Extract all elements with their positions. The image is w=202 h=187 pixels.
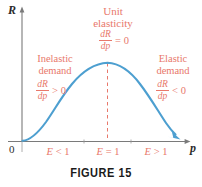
region-relation: > 1 [154, 146, 168, 157]
figure-container: R p 0 Unit elasticity dR dp = 0 Inelasti… [0, 0, 202, 187]
y-axis-label: R [8, 3, 16, 18]
inelastic-demand-fraction: dR dp [36, 80, 49, 101]
unit-elasticity-denominator: dp [100, 41, 112, 51]
x-axis-region-elastic: E > 1 [136, 146, 176, 157]
inelastic-demand-line-2: demand [27, 65, 83, 77]
inelastic-demand-relation: > 0 [49, 85, 66, 96]
figure-caption: FIGURE 15 [12, 166, 190, 180]
origin-label: 0 [9, 143, 15, 155]
inelastic-demand-line-1: Inelastic [27, 53, 83, 65]
elastic-demand-numerator: dR [156, 80, 169, 90]
inelastic-demand-annotation: Inelastic demand [27, 53, 83, 77]
elastic-demand-line-1: Elastic [146, 53, 200, 65]
region-relation: < 1 [56, 146, 70, 157]
region-variable: E [145, 146, 151, 157]
elastic-demand-annotation: Elastic demand [146, 53, 200, 77]
elastic-demand-fraction: dR dp [156, 80, 169, 101]
x-axis-region-inelastic: E < 1 [38, 146, 78, 157]
unit-elasticity-relation: = 0 [112, 35, 129, 46]
inelastic-demand-formula: dR dp > 0 [26, 80, 76, 101]
elastic-demand-relation: < 0 [169, 85, 186, 96]
unit-elasticity-numerator: dR [99, 30, 112, 40]
elastic-demand-denominator: dp [157, 91, 169, 101]
unit-elasticity-line-2: elasticity [82, 17, 144, 29]
inelastic-demand-denominator: dp [37, 91, 49, 101]
inelastic-demand-numerator: dR [36, 80, 49, 90]
x-axis-label: p [190, 141, 196, 156]
unit-elasticity-annotation: Unit elasticity [82, 5, 144, 30]
elastic-demand-formula: dR dp < 0 [145, 80, 197, 101]
y-axis [20, 7, 25, 142]
region-variable: E [47, 146, 53, 157]
unit-elasticity-fraction: dR dp [99, 30, 112, 51]
unit-elasticity-line-1: Unit [82, 5, 144, 17]
unit-elasticity-formula: dR dp = 0 [86, 30, 142, 51]
elastic-demand-line-2: demand [146, 65, 200, 77]
x-axis [8, 139, 191, 144]
region-variable: E [97, 146, 103, 157]
region-relation: = 1 [106, 146, 120, 157]
x-axis-region-unit: E = 1 [88, 146, 128, 157]
